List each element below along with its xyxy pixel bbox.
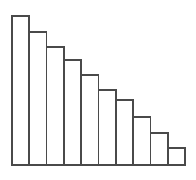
bar-1 [12, 16, 29, 165]
bar-5 [81, 75, 98, 165]
bar-10 [168, 148, 185, 165]
bar-chart-svg [0, 0, 196, 180]
bars-group [12, 16, 185, 165]
bar-2 [29, 32, 46, 165]
chart-container [0, 0, 196, 180]
bar-9 [150, 133, 167, 165]
bar-7 [116, 100, 133, 165]
bar-4 [64, 60, 81, 165]
bar-6 [99, 90, 116, 165]
bar-3 [47, 47, 64, 165]
bar-8 [133, 117, 150, 165]
